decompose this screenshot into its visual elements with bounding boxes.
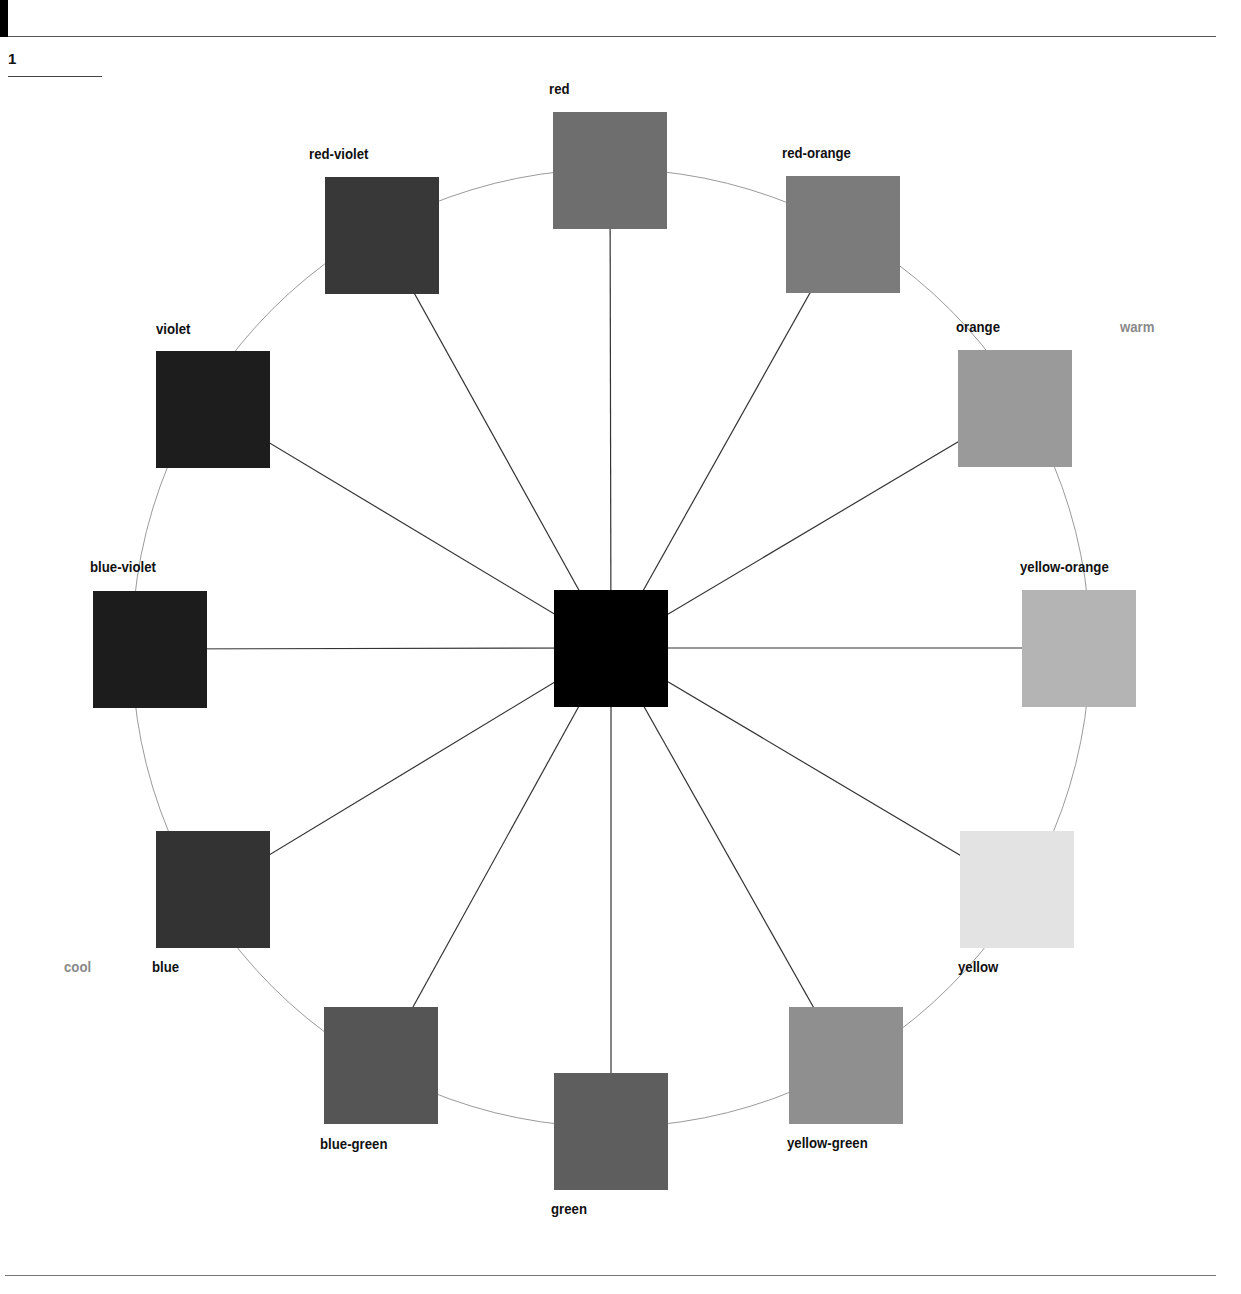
label-blue-green: blue-green [320, 1135, 387, 1152]
swatch-blue-green [324, 1007, 438, 1124]
spoke-red-orange [611, 234, 843, 648]
spoke-blue [213, 648, 611, 889]
swatch-violet [156, 351, 270, 468]
swatch-orange [958, 350, 1072, 467]
label-blue-violet: blue-violet [90, 558, 156, 575]
label-red-orange: red-orange [782, 144, 851, 161]
swatch-blue-violet [93, 591, 207, 708]
label-red: red [549, 80, 570, 97]
spoke-blue-green [381, 648, 611, 1065]
label-yellow-orange: yellow-orange [1020, 558, 1109, 575]
center-swatch [554, 590, 668, 707]
spoke-red [610, 170, 611, 648]
spoke-orange [611, 408, 1015, 648]
swatch-red-violet [325, 177, 439, 294]
swatch-yellow-orange [1022, 590, 1136, 707]
swatch-red [553, 112, 667, 229]
label-green: green [551, 1200, 587, 1217]
label-red-violet: red-violet [309, 145, 368, 162]
swatch-blue [156, 831, 270, 948]
swatch-red-orange [786, 176, 900, 293]
label-violet: violet [156, 320, 190, 337]
spoke-blue-violet [150, 648, 611, 649]
cool-label: cool [64, 958, 91, 975]
spoke-violet [213, 409, 611, 648]
spoke-yellow-green [611, 648, 846, 1065]
label-orange: orange [956, 318, 1000, 335]
label-yellow: yellow [958, 958, 998, 975]
swatch-green [554, 1073, 668, 1190]
spoke-red-violet [382, 235, 611, 648]
label-yellow-green: yellow-green [787, 1134, 868, 1151]
warm-label: warm [1120, 318, 1154, 335]
spoke-yellow [611, 648, 1017, 889]
swatch-yellow [960, 831, 1074, 948]
label-blue: blue [152, 958, 179, 975]
bottom-rule [5, 1275, 1216, 1276]
swatch-yellow-green [789, 1007, 903, 1124]
